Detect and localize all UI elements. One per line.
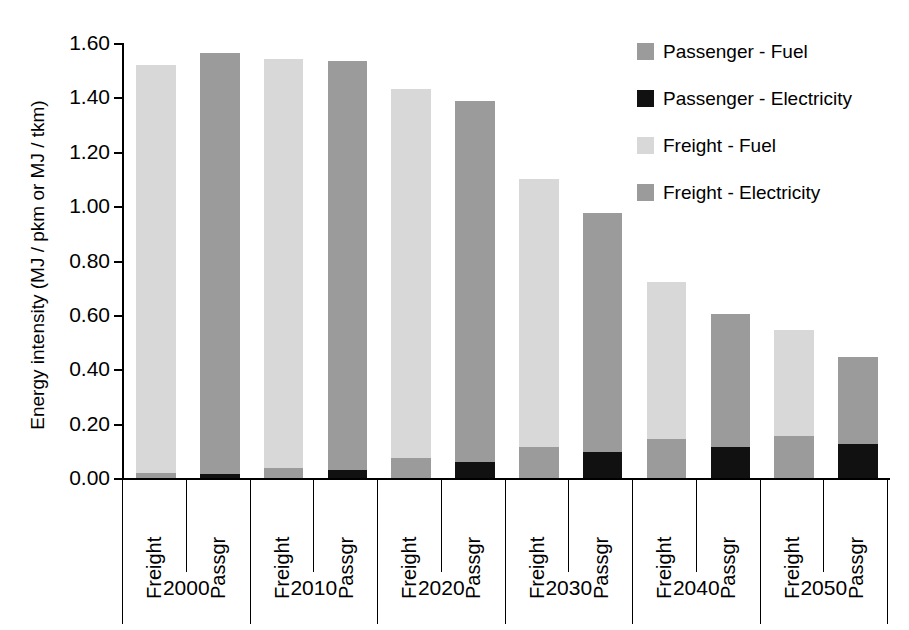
y-axis-tick-label: 0.80 <box>40 249 110 273</box>
legend-swatch-icon <box>637 90 654 107</box>
bar-slot <box>124 43 188 478</box>
chart-legend: Passenger - FuelPassenger - ElectricityF… <box>637 28 909 216</box>
x-axis-sublabel-cell: Freight <box>760 480 824 572</box>
stacked-bar[interactable] <box>711 314 751 478</box>
bar-slot <box>379 43 443 478</box>
legend-item[interactable]: Freight - Electricity <box>637 169 909 216</box>
bar-segment <box>583 213 623 452</box>
bar-segment <box>519 179 559 447</box>
energy-intensity-bar-chart: Energy intensity (MJ / pkm or MJ / tkm) … <box>0 0 909 630</box>
x-axis-band: FreightPassgrFreightPassgrFreightPassgrF… <box>122 480 888 625</box>
y-axis-tick <box>114 369 124 371</box>
legend-item[interactable]: Passenger - Electricity <box>637 75 909 122</box>
bar-segment <box>838 357 878 444</box>
x-axis-sublabel-cell: Freight <box>250 480 314 572</box>
bar-segment <box>647 282 687 438</box>
x-axis-group-label: 2010 <box>250 572 378 624</box>
y-axis-tick-label: 0.40 <box>40 357 110 381</box>
x-axis-group-label: 2040 <box>632 572 760 624</box>
stacked-bar[interactable] <box>136 65 176 478</box>
x-axis-sublabel-cell: Freight <box>632 480 696 572</box>
legend-label: Freight - Electricity <box>663 182 820 204</box>
legend-label: Passenger - Fuel <box>663 41 808 63</box>
x-axis-group-labels: 200020102020203020402050 <box>122 572 888 624</box>
x-axis-sublabel-cell: Passgr <box>313 480 377 572</box>
x-axis-sublabel-cell: Passgr <box>696 480 760 572</box>
x-axis-sublabel-cell: Freight <box>122 480 186 572</box>
bar-segment <box>391 89 431 457</box>
stacked-bar[interactable] <box>391 89 431 478</box>
y-axis-tick-label: 0.00 <box>40 466 110 490</box>
bar-segment <box>136 473 176 478</box>
stacked-bar[interactable] <box>455 101 495 478</box>
legend-swatch-icon <box>637 43 654 60</box>
bar-segment <box>647 439 687 478</box>
bar-slot <box>252 43 316 478</box>
legend-swatch-icon <box>637 137 654 154</box>
x-axis-sublabel-cell: Passgr <box>823 480 888 572</box>
bar-segment <box>838 444 878 478</box>
stacked-bar[interactable] <box>328 61 368 478</box>
bar-slot <box>507 43 571 478</box>
y-axis-tick <box>114 261 124 263</box>
x-axis-sublabel-cell: Freight <box>377 480 441 572</box>
y-axis-tick-label: 1.00 <box>40 194 110 218</box>
stacked-bar[interactable] <box>838 357 878 478</box>
bar-segment <box>455 462 495 478</box>
x-axis-group-label: 2020 <box>377 572 505 624</box>
bar-segment <box>583 452 623 478</box>
y-axis-tick <box>114 152 124 154</box>
stacked-bar[interactable] <box>774 330 814 478</box>
legend-label: Freight - Fuel <box>663 135 776 157</box>
legend-item[interactable]: Freight - Fuel <box>637 122 909 169</box>
bar-segment <box>328 61 368 470</box>
y-axis-tick <box>114 315 124 317</box>
bar-segment <box>391 458 431 478</box>
bar-segment <box>711 447 751 478</box>
stacked-bar[interactable] <box>519 179 559 478</box>
bar-slot <box>443 43 507 478</box>
bar-segment <box>328 470 368 478</box>
legend-item[interactable]: Passenger - Fuel <box>637 28 909 75</box>
bar-segment <box>519 447 559 478</box>
x-axis-sublabel-cell: Freight <box>505 480 569 572</box>
x-axis-group-label: 2050 <box>760 572 889 624</box>
legend-label: Passenger - Electricity <box>663 88 852 110</box>
y-axis-tick-label: 0.60 <box>40 303 110 327</box>
y-axis-tick <box>114 97 124 99</box>
bar-segment <box>200 474 240 478</box>
x-axis-group-label: 2030 <box>505 572 633 624</box>
bar-segment <box>264 468 304 478</box>
bar-segment <box>264 59 304 468</box>
bar-segment <box>774 330 814 436</box>
bar-segment <box>711 314 751 447</box>
y-axis-tick <box>114 424 124 426</box>
y-axis-tick-label: 1.20 <box>40 140 110 164</box>
bar-segment <box>455 101 495 461</box>
stacked-bar[interactable] <box>647 282 687 478</box>
x-axis-sublabel-cell: Passgr <box>186 480 250 572</box>
stacked-bar[interactable] <box>583 213 623 478</box>
y-axis-tick <box>114 43 124 45</box>
bar-segment <box>136 65 176 473</box>
bar-slot <box>571 43 635 478</box>
y-axis-tick <box>114 206 124 208</box>
x-axis-group-label: 2000 <box>122 572 250 624</box>
x-axis-sublabels: FreightPassgrFreightPassgrFreightPassgrF… <box>122 480 888 572</box>
bar-slot <box>188 43 252 478</box>
legend-swatch-icon <box>637 184 654 201</box>
x-axis-sublabel-cell: Passgr <box>568 480 632 572</box>
y-axis-tick-label: 1.60 <box>40 31 110 55</box>
bar-segment <box>774 436 814 478</box>
bar-segment <box>200 53 240 474</box>
y-axis-tick-label: 0.20 <box>40 412 110 436</box>
y-axis-tick-label: 1.40 <box>40 85 110 109</box>
x-axis-sublabel-cell: Passgr <box>441 480 505 572</box>
stacked-bar[interactable] <box>264 59 304 478</box>
bar-slot <box>315 43 379 478</box>
stacked-bar[interactable] <box>200 53 240 478</box>
